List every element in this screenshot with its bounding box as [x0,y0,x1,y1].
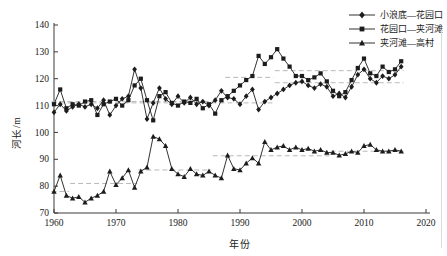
series-line [54,67,401,119]
square-marker-icon [89,98,93,102]
legend-item-jiahetan-gaocun: 夹河滩—高村 [348,36,443,49]
diamond-marker-icon [312,85,317,91]
square-marker-icon [319,71,323,75]
square-marker-icon [238,83,242,87]
axes [54,23,430,213]
square-marker-icon [399,59,403,63]
triangle-marker-icon [206,169,211,174]
diamond-marker-icon [200,99,205,105]
triangle-marker-icon [188,166,193,171]
y-tick-label: 90 [40,154,50,164]
square-marker-icon [343,90,347,94]
square-marker-icon [281,56,285,60]
square-marker-icon [275,47,279,51]
diamond-marker-icon [269,95,274,101]
triangle-marker-icon [132,185,137,190]
y-axis-label: 河长/m [9,117,23,149]
x-tick-label: 2010 [355,218,374,228]
square-marker-icon [145,98,149,102]
triangle-marker-icon [293,144,298,149]
square-marker-icon [164,90,168,94]
square-marker-icon [331,89,335,93]
square-marker-icon [133,83,137,87]
series-jiahetan-gaocun [51,134,404,205]
triangle-marker-icon [392,147,397,152]
square-marker-icon [201,106,205,110]
scan-edge-artifact [441,30,442,248]
triangle-marker-icon [101,189,106,194]
diamond-marker-icon [145,116,150,122]
square-marker-icon [350,78,354,82]
triangle-marker-icon [138,169,143,174]
triangle-marker-icon [157,136,162,141]
square-marker-icon [356,66,360,70]
diamond-marker-icon [132,66,137,72]
x-tick-label: 2000 [293,218,312,228]
diamond-marker-icon [349,84,354,90]
triangle-marker-icon [231,166,236,171]
diamond-marker-icon [348,10,376,20]
triangle-marker-icon [151,134,156,139]
x-tick-label: 2020 [417,218,436,228]
y-tick-label: 140 [35,20,50,30]
triangle-marker-icon [126,167,131,172]
triangle-marker-icon [64,193,69,198]
square-marker-icon [95,113,99,117]
legend-label: 夹河滩—高村 [380,36,434,49]
square-marker-icon [52,102,56,106]
y-tick-label: 100 [35,128,50,138]
square-marker-icon [151,118,155,122]
square-marker-icon [232,89,236,93]
square-marker-icon [337,94,341,98]
square-marker-icon [226,94,230,98]
square-marker-icon [108,99,112,103]
square-marker-icon [288,65,292,69]
diamond-marker-icon [300,79,305,85]
diamond-marker-icon [386,76,391,82]
triangle-marker-icon [219,175,224,180]
x-tick-label: 1960 [45,218,64,228]
square-marker-icon [257,54,261,58]
x-axis-label: 年份 [205,236,275,251]
triangle-marker-icon [213,173,218,178]
triangle-marker-icon [287,147,292,152]
square-marker-icon [77,103,81,107]
square-marker-icon [120,103,124,107]
square-marker-icon [219,98,223,102]
square-marker-icon [213,112,217,116]
square-marker-icon [157,94,161,98]
triangle-marker-icon [95,193,100,198]
triangle-marker-icon [89,195,94,200]
series-line [54,49,401,120]
triangle-marker-icon [107,169,112,174]
square-marker-icon [176,103,180,107]
square-marker-icon [269,55,273,59]
square-marker-icon [294,74,298,78]
series-huayuankou-jiahetan [52,47,403,122]
triangle-marker-icon [306,146,311,151]
square-marker-icon [263,62,267,66]
square-marker-icon [114,97,118,101]
triangle-marker-icon [76,194,81,199]
square-marker-icon [362,56,366,60]
triangle-marker-icon [348,38,376,48]
square-marker-icon [71,102,75,106]
square-marker-icon [182,99,186,103]
square-marker-icon [348,24,376,34]
x-tick-label: 1980 [169,218,188,228]
diamond-marker-icon [83,104,88,110]
triangle-marker-icon [225,152,230,157]
square-marker-icon [300,74,304,78]
square-marker-icon [188,101,192,105]
square-marker-icon [64,106,68,110]
triangle-marker-icon [343,151,348,156]
diamond-marker-icon [318,81,323,87]
legend-item-xiaolangdi-huayuankou: 小浪底—花园口 [348,8,443,21]
legend-item-huayuankou-jiahetan: 花园口—夹河滩 [348,22,443,35]
square-marker-icon [374,74,378,78]
triangle-marker-icon [58,173,63,178]
diamond-marker-icon [293,80,298,86]
triangle-marker-icon [144,165,149,170]
square-marker-icon [368,71,372,75]
square-marker-icon [325,79,329,83]
